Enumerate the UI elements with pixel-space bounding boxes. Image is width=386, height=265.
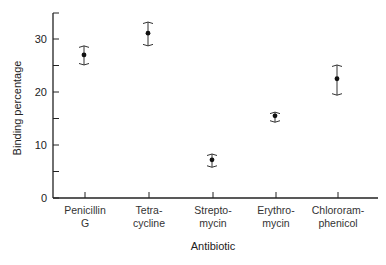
x-category-label: Penicillin <box>64 204 106 216</box>
y-tick-label: 30 <box>35 33 47 45</box>
x-axis-title: Antibiotic <box>191 240 236 252</box>
y-tick-label: 0 <box>41 192 47 204</box>
point-marker <box>82 53 87 58</box>
x-category-label: Erythro- <box>257 204 295 216</box>
y-tick-label: 10 <box>35 139 47 151</box>
chart: 0102030PenicillinGTetra-cyclineStrepto-m… <box>0 0 386 265</box>
x-category-label: mycin <box>199 217 227 229</box>
data-point <box>207 154 217 167</box>
x-category-label: Chlororam- <box>312 204 365 216</box>
data-point <box>143 22 153 46</box>
y-tick-label: 20 <box>35 86 47 98</box>
data-point <box>79 46 89 65</box>
axes <box>53 13 378 198</box>
data-point <box>332 65 342 95</box>
point-marker <box>273 113 278 118</box>
x-category-label: mycin <box>262 217 290 229</box>
y-axis-title: Binding percentage <box>11 61 23 156</box>
x-category-label: Strepto- <box>194 204 232 216</box>
x-category-label: G <box>81 217 89 229</box>
data-points <box>79 22 342 167</box>
x-category-label: phenicol <box>318 217 357 229</box>
data-point <box>270 112 280 122</box>
x-category-label: cycline <box>133 217 165 229</box>
point-marker <box>146 31 151 36</box>
x-category-label: Tetra- <box>136 204 163 216</box>
labels: 0102030PenicillinGTetra-cyclineStrepto-m… <box>11 33 365 252</box>
point-marker <box>335 76 340 81</box>
point-marker <box>210 157 215 162</box>
